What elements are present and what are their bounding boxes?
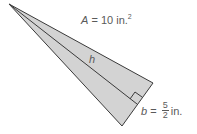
base-denominator: 2: [163, 111, 168, 120]
base-label: b = 5 2 in.: [141, 101, 182, 120]
area-label: A = 10 in.2: [81, 14, 132, 26]
area-value: 10 in.: [101, 14, 128, 26]
base-unit: in.: [171, 105, 183, 117]
base-equals: =: [147, 105, 160, 117]
area-exponent: 2: [128, 13, 132, 20]
area-equals: =: [88, 14, 101, 26]
height-label: h: [89, 53, 95, 65]
base-fraction: 5 2: [162, 101, 169, 120]
